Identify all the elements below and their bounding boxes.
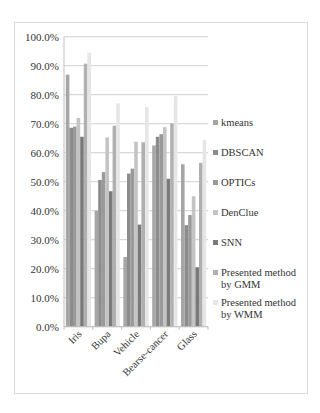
y-tick-label: 90.0%: [31, 60, 59, 72]
legend-swatch: [213, 300, 218, 305]
bar: [131, 169, 135, 327]
y-tick-label: 60.0%: [31, 147, 59, 159]
bar: [145, 107, 149, 327]
bar: [199, 163, 203, 327]
bar: [195, 267, 199, 326]
legend-swatch: [213, 270, 218, 275]
bar: [167, 179, 171, 327]
bar: [69, 128, 73, 327]
bar: [141, 142, 145, 326]
bar: [116, 103, 120, 326]
legend-label: DenClue: [221, 207, 259, 218]
bar: [113, 126, 117, 327]
legend-label: OPTICs: [221, 177, 255, 188]
bar: [134, 142, 138, 327]
y-tick-label: 50.0%: [31, 176, 59, 188]
x-tick-label: Glass: [175, 328, 199, 352]
y-tick-label: 30.0%: [31, 234, 59, 246]
bar: [156, 137, 160, 327]
bar: [138, 225, 142, 327]
bar: [77, 118, 81, 327]
bar: [170, 123, 174, 326]
bar: [66, 75, 70, 327]
legend-swatch: [213, 150, 218, 155]
bar-chart: 0.0%10.0%20.0%30.0%40.0%50.0%60.0%70.0%8…: [0, 0, 320, 413]
bar: [95, 211, 99, 327]
bar: [80, 137, 84, 327]
bar: [174, 96, 178, 327]
y-tick-label: 80.0%: [31, 89, 59, 101]
bar: [73, 127, 77, 327]
legend-label: by WMM: [221, 309, 263, 320]
bar: [185, 225, 189, 327]
legend-swatch: [213, 120, 218, 125]
bar: [105, 137, 109, 326]
legend-label: SNN: [221, 237, 242, 248]
bar: [98, 180, 102, 327]
legend-label: kmeans: [221, 117, 253, 128]
bar: [109, 191, 113, 326]
bar: [181, 164, 185, 326]
legend-swatch: [213, 180, 218, 185]
bar: [102, 172, 106, 327]
y-tick-label: 100.0%: [25, 31, 59, 43]
x-tick-label: Bupa: [89, 328, 113, 352]
bar: [188, 215, 192, 327]
legend-label: by GMM: [221, 279, 261, 290]
y-tick-label: 20.0%: [31, 263, 59, 275]
x-tick-label: Iris: [66, 328, 84, 346]
legend-label: Presented method: [221, 267, 297, 278]
bar: [84, 64, 88, 327]
y-tick-label: 40.0%: [31, 205, 59, 217]
bar: [159, 134, 163, 327]
legend-swatch: [213, 240, 218, 245]
legend-label: Presented method: [221, 297, 297, 308]
y-tick-label: 70.0%: [31, 118, 59, 130]
legend-swatch: [213, 210, 218, 215]
bar: [203, 140, 207, 327]
bar: [163, 127, 167, 327]
bar: [192, 196, 196, 327]
bar: [152, 145, 156, 326]
bar: [87, 53, 91, 327]
bar: [123, 257, 127, 327]
legend-label: DBSCAN: [221, 147, 264, 158]
bar: [127, 174, 131, 327]
y-tick-label: 10.0%: [31, 292, 59, 304]
y-tick-label: 0.0%: [36, 321, 59, 333]
